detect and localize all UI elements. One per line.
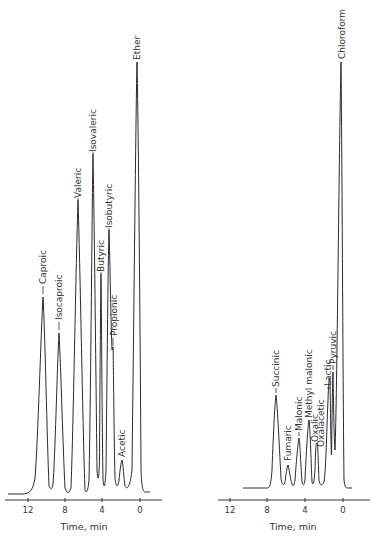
right-tick-label-8: 8	[264, 505, 269, 515]
left-tick-label-4: 4	[99, 505, 104, 515]
right-tick-label-4: 4	[302, 505, 307, 515]
peak-label-ether: Ether	[132, 36, 142, 60]
peak-label-methyl-malonic: Methyl malonic	[304, 349, 314, 418]
left-trace	[8, 62, 150, 494]
peak-label-isobutyric: Isobutyric	[104, 184, 114, 228]
peak-label-caproic: Caproic	[38, 250, 48, 284]
peak-label-propionic: Propionic	[109, 295, 119, 336]
right-tick-label-12: 12	[225, 505, 236, 515]
peak-label-isovaleric: Isovaleric	[88, 109, 98, 152]
left-tick-label-12: 12	[23, 505, 34, 515]
left-chromatogram: 12 8 4 0 Time, min Caproic Isocaproic Va…	[5, 36, 162, 532]
peak-label-succinic: Succinic	[271, 350, 281, 387]
right-tick-label-0: 0	[340, 505, 345, 515]
peak-label-chloroform: Chloroform	[337, 9, 347, 59]
peak-label-fumaric: Fumaric	[283, 425, 293, 461]
peak-label-pyruvic: Pyruvic	[328, 331, 338, 364]
chromatogram-figure: 12 8 4 0 Time, min Caproic Isocaproic Va…	[0, 0, 376, 544]
peak-label-valeric: Valeric	[73, 168, 83, 198]
left-tick-label-0: 0	[137, 505, 142, 515]
right-chromatogram: 12 8 4 0 Time, min Succinic Fumaric Malo…	[218, 9, 370, 532]
right-x-axis-title: Time, min	[268, 521, 316, 532]
left-x-axis-title: Time, min	[59, 521, 107, 532]
peak-label-oxalacetic: Oxalacetic	[316, 400, 326, 447]
peak-label-butyric: Butyric	[96, 240, 106, 272]
peak-label-isocaproic: Isocaproic	[54, 274, 64, 320]
left-tick-label-8: 8	[62, 505, 67, 515]
peak-label-acetic: Acetic	[117, 429, 127, 457]
peak-label-malonic: Malonic	[294, 397, 304, 431]
